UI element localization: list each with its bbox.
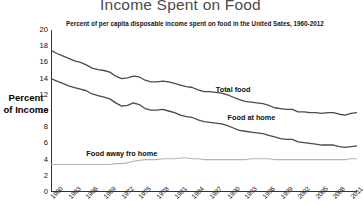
y-tick-label: 8: [32, 123, 48, 131]
y-tick-label: 6: [32, 139, 48, 147]
chart-title: Income Spent on Food: [0, 0, 361, 13]
series-label: Total food: [216, 85, 251, 94]
series-line: [51, 50, 357, 115]
y-tick-label: 18: [32, 42, 48, 50]
chart-subtitle: Percent of per capita disposable income …: [66, 20, 358, 27]
y-tick-label: 2: [32, 172, 48, 180]
plot-area: [51, 30, 357, 192]
plot-svg: [51, 30, 357, 192]
y-tick-label: 0: [32, 188, 48, 196]
y-tick-label: 10: [32, 107, 48, 115]
series-lines: [51, 50, 357, 164]
y-tick-label: 14: [32, 75, 48, 83]
axis-lines: [52, 30, 358, 192]
y-tick-label: 20: [32, 26, 48, 34]
series-label: Food away fro home: [86, 149, 157, 158]
series-label: Food at home: [228, 113, 276, 122]
series-line: [51, 158, 357, 164]
y-tick-label: 16: [32, 58, 48, 66]
y-tick-label: 12: [32, 91, 48, 99]
y-tick-label: 4: [32, 156, 48, 164]
